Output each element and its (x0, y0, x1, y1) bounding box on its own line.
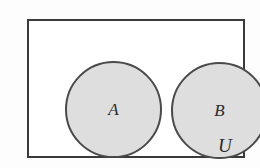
set-label-a: A (108, 101, 118, 118)
set-circle-b: B (171, 62, 260, 159)
universal-set-label: U (218, 136, 232, 155)
set-circle-a: A (65, 61, 162, 158)
venn-diagram-canvas: A B U (0, 0, 260, 168)
set-label-b: B (214, 102, 224, 119)
universal-set-rectangle: A B (27, 19, 245, 158)
